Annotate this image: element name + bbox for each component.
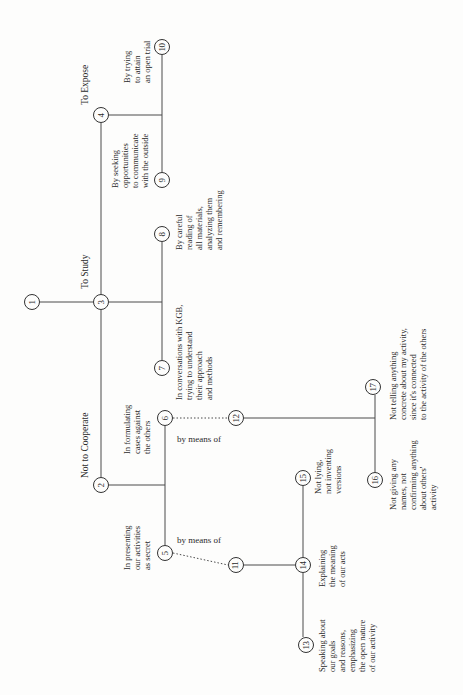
branch-label-to-study: To Study bbox=[80, 255, 90, 289]
node-12: 12 bbox=[228, 410, 244, 426]
node-16: 16 bbox=[367, 472, 383, 488]
text-node-5: In presenting our activities as secret bbox=[122, 525, 152, 570]
text-node-8: By careful reading of all materials, ana… bbox=[174, 190, 224, 250]
text-node-16: Not giving any names, not confirming any… bbox=[388, 440, 438, 510]
node-14: 14 bbox=[295, 557, 311, 573]
node-2: 2 bbox=[93, 477, 109, 493]
text-node-14: Explaining the meaning of our acts bbox=[317, 545, 347, 587]
node-4: 4 bbox=[93, 107, 109, 123]
text-node-15: Not lying, not inventing versions bbox=[313, 449, 343, 494]
node-11: 11 bbox=[228, 557, 244, 573]
node-9: 9 bbox=[154, 172, 170, 188]
connector-label-6-12: by means of bbox=[177, 434, 221, 444]
text-node-6: In formulating cases against the others bbox=[122, 405, 152, 454]
text-node-10: By trying to attain an open trial bbox=[122, 41, 152, 83]
text-node-17: Not telling anything concrete about my a… bbox=[388, 328, 428, 420]
node-8: 8 bbox=[154, 226, 170, 242]
node-10: 10 bbox=[154, 39, 170, 55]
node-15: 15 bbox=[295, 470, 311, 486]
node-6: 6 bbox=[157, 410, 173, 426]
text-node-7: In conversations with KGB, trying to und… bbox=[174, 305, 214, 400]
node-13: 13 bbox=[298, 637, 314, 653]
text-node-9: By seeking opportunities to communicate … bbox=[110, 133, 150, 188]
branch-label-not-to-cooperate: Not to Cooperate bbox=[80, 413, 90, 478]
branch-label-to-expose: To Expose bbox=[80, 65, 90, 105]
node-5: 5 bbox=[157, 545, 173, 561]
text-node-13: Speaking about our goals and reasons, em… bbox=[317, 619, 377, 672]
node-7: 7 bbox=[154, 360, 170, 376]
node-17: 17 bbox=[365, 379, 381, 395]
node-1: 1 bbox=[24, 294, 40, 310]
node-3: 3 bbox=[93, 294, 109, 310]
connector-label-5-11: by means of bbox=[177, 535, 221, 545]
